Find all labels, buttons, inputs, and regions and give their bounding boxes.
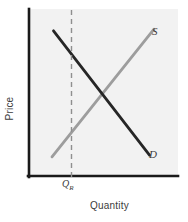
supply-curve-label: S [152, 25, 158, 37]
x-axis-label: Quantity [90, 200, 129, 211]
quota-quantity-subscript: R [69, 184, 73, 192]
supply-demand-figure: Price Quantity S D QR [0, 0, 188, 222]
y-axis-label: Price [4, 89, 15, 129]
quota-quantity-label: QR [62, 178, 74, 192]
demand-curve-label: D [149, 148, 157, 160]
chart-canvas [0, 0, 188, 222]
